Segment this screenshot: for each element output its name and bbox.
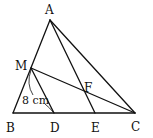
point-label-d: D	[50, 121, 60, 135]
point-label-c: C	[131, 120, 140, 134]
segment-ae	[50, 20, 95, 113]
geometry-diagram: 8 cm A M F B D E C	[0, 0, 153, 138]
point-label-m: M	[15, 59, 27, 73]
measurement-arc-md	[29, 70, 33, 95]
measurement-label-md: 8 cm	[22, 94, 50, 107]
segment-ac	[50, 20, 135, 113]
point-label-f: F	[84, 81, 92, 95]
point-label-a: A	[44, 3, 54, 17]
point-label-b: B	[6, 121, 15, 135]
point-label-e: E	[91, 121, 100, 135]
